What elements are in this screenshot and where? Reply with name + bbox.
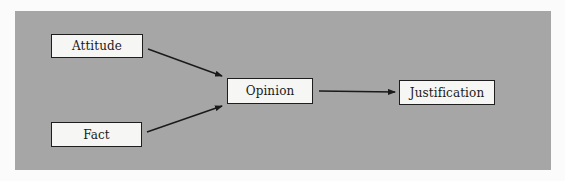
node-attitude: Attitude: [51, 34, 143, 58]
node-justification-label: Justification: [410, 86, 484, 100]
node-opinion: Opinion: [227, 78, 313, 104]
node-fact-label: Fact: [83, 128, 110, 142]
node-attitude-label: Attitude: [72, 39, 122, 53]
node-opinion-label: Opinion: [246, 84, 295, 98]
node-justification: Justification: [399, 80, 495, 105]
diagram-canvas: Attitude Fact Opinion Justification: [0, 0, 565, 181]
node-fact: Fact: [51, 122, 142, 147]
